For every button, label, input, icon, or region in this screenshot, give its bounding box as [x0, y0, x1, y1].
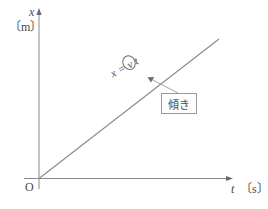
x-axis-arrowhead — [226, 176, 233, 181]
x-axis-symbol: t — [231, 183, 234, 195]
y-axis-arrowhead — [36, 8, 41, 15]
velocity-symbol: v — [125, 57, 135, 70]
slope-callout-label: 傾き — [162, 94, 196, 113]
y-axis-unit: 〔m〕 — [9, 21, 42, 33]
x-axis-unit: 〔s〕 — [240, 183, 268, 195]
figure-canvas: x 〔m〕 t 〔s〕 O x = vt 傾き — [0, 0, 268, 209]
x-axis — [24, 176, 233, 181]
y-axis-symbol: x — [29, 6, 34, 18]
origin-label: O — [25, 181, 34, 193]
y-axis — [36, 8, 41, 189]
slope-callout-box: 傾き — [161, 93, 197, 114]
